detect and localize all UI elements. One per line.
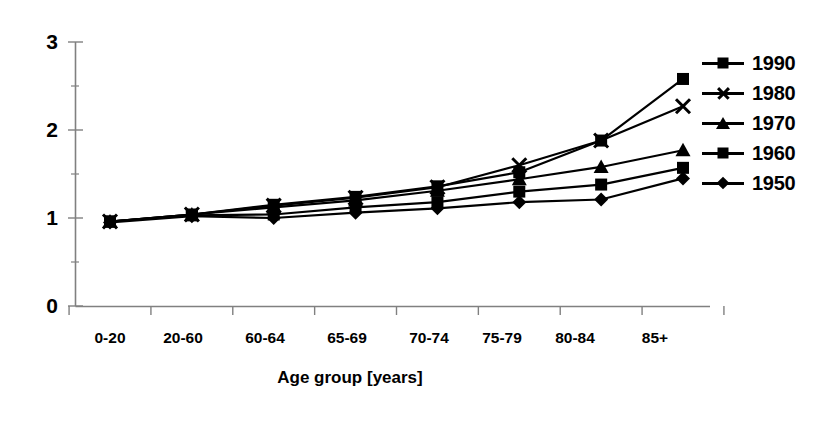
legend-label: 1970 [746,113,795,133]
legend-swatch-1990 [700,49,746,77]
triangle-marker-icon [676,143,691,157]
legend-item-1960[interactable]: 1960 [700,138,839,168]
line-chart: 3 2 1 0 0-20 20-60 60-64 65-69 70-74 75-… [0,0,839,423]
legend-label: 1950 [746,173,795,193]
square-marker-icon [595,179,607,191]
legend-item-1950[interactable]: 1950 [700,168,839,198]
legend-label: 1960 [746,143,795,163]
x-category-label-7: 85+ [605,330,705,346]
legend: 1990 1980 1970 1960 [700,48,839,198]
legend-item-1990[interactable]: 1990 [700,48,839,78]
legend-swatch-1960 [700,139,746,167]
legend-swatch-1950 [700,169,746,197]
legend-item-1970[interactable]: 1970 [700,108,839,138]
square-marker-icon [718,148,729,159]
diamond-marker-icon [719,179,728,188]
x-marker-icon [716,86,730,100]
square-marker-icon [677,73,689,85]
legend-swatch-1980 [700,79,746,107]
square-marker-icon [718,58,729,69]
triangle-marker-icon [716,117,730,129]
legend-swatch-1970 [700,109,746,137]
x-axis-title: Age group [years] [0,368,700,388]
legend-label: 1990 [746,53,795,73]
diamond-marker-icon [594,193,608,207]
legend-item-1980[interactable]: 1980 [700,78,839,108]
legend-label: 1980 [746,83,795,103]
